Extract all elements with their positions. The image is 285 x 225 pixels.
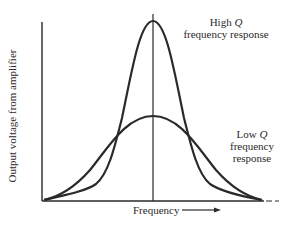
high-q-label-line2: frequency response [172, 28, 280, 40]
low-q-label-line1: Low Q [222, 128, 282, 140]
q-symbol: Q [234, 16, 242, 28]
frequency-arrow-head-icon [214, 208, 221, 213]
q-symbol: Q [259, 128, 267, 140]
high-q-label: High Q frequency response [172, 16, 280, 40]
high-q-label-line1: High Q [172, 16, 280, 28]
q-response-diagram: Output voltage from amplifier High Q fre… [0, 0, 285, 225]
low-q-prefix: Low [237, 128, 260, 140]
low-q-label: Low Q frequency response [222, 128, 282, 164]
high-q-prefix: High [210, 16, 235, 28]
x-axis-label: Frequency [133, 204, 179, 216]
low-q-label-line3: response [222, 152, 282, 164]
low-q-label-line2: frequency [222, 140, 282, 152]
y-axis-label: Output voltage from amplifier [6, 50, 18, 183]
